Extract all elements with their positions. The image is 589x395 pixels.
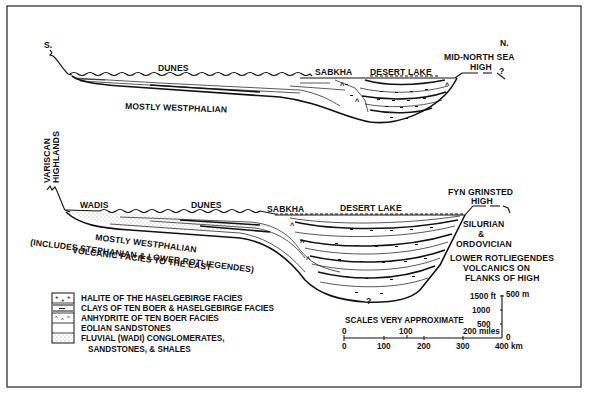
vertical-tick-500m: 500 m xyxy=(506,290,529,299)
fluvial-swatch xyxy=(53,334,73,342)
km-tick-0: 0 xyxy=(342,342,347,351)
label-fyn-grinsted-2: HIGH xyxy=(471,196,493,206)
label-north: N. xyxy=(500,38,509,48)
svg-text:^: ^ xyxy=(355,97,360,106)
miles-tick-0: 0 xyxy=(342,327,347,336)
label-top-dunes: DUNES xyxy=(158,63,189,73)
svg-text:^: ^ xyxy=(61,317,64,323)
miles-tick-100: 100 xyxy=(399,327,413,336)
svg-text:^: ^ xyxy=(290,221,295,230)
svg-text:^: ^ xyxy=(306,255,311,264)
km-tick-400: 400 km xyxy=(495,342,523,351)
label-bottom-sabkha: SABKHA xyxy=(267,204,304,214)
legend-item-eolian: EOLIAN SANDSTONES xyxy=(81,324,171,333)
cross-section-diagram: ^ ^ ^ S. N. DUNES SABKHA DESERT LAKE MID… xyxy=(0,0,589,395)
label-volcanics-2: VOLCANICS ON xyxy=(463,263,530,273)
label-top-sabkha: SABKHA xyxy=(315,67,352,77)
label-top-desert-lake: DESERT LAKE xyxy=(370,67,432,77)
label-wadis: WADIS xyxy=(80,200,109,210)
label-silurian: SILURIAN xyxy=(463,219,504,229)
vertical-tick-zero: 0 xyxy=(506,333,511,342)
svg-text:^: ^ xyxy=(55,315,58,321)
vertical-tick-500: 500 xyxy=(477,320,491,329)
legend-item-halite: HALITE OF THE HASELGEBIRGE FACIES xyxy=(81,294,243,303)
label-top-question: ? xyxy=(499,66,504,76)
label-ordovician: ORDOVICIAN xyxy=(456,239,512,249)
legend-item-fluvial: FLUVIAL (WADI) CONGLOMERATES, xyxy=(81,334,224,343)
svg-text:+: + xyxy=(61,297,65,303)
label-silurian-amp: & xyxy=(478,229,484,239)
label-south: S. xyxy=(44,40,52,50)
vertical-tick-1500ft: 1500 ft xyxy=(470,292,496,301)
vertical-tick-1000: 1000 xyxy=(472,306,491,315)
scale-title: SCALES VERY APPROXIMATE xyxy=(345,316,464,325)
label-highlands: HIGHLANDS xyxy=(51,131,61,183)
km-tick-200: 200 xyxy=(417,342,431,351)
svg-text:^: ^ xyxy=(445,81,450,90)
label-volcanics-1: LOWER ROTLIEGENDES xyxy=(450,253,554,263)
label-bottom-desert-lake: DESERT LAKE xyxy=(340,203,402,213)
svg-text:^: ^ xyxy=(340,81,345,90)
svg-text:^: ^ xyxy=(67,315,70,321)
label-bottom-dunes: DUNES xyxy=(191,200,222,210)
legend-item-clay: CLAYS OF TEN BOER & HASELGEBIRGE FACIES xyxy=(81,304,275,313)
label-bottom-question: ? xyxy=(366,296,371,306)
label-mid-north-sea-high-1: MID-NORTH SEA xyxy=(444,52,515,62)
km-tick-100: 100 xyxy=(377,342,391,351)
legend-item-anhydrite: ANHYDRITE OF TEN BOER FACIES xyxy=(81,314,219,323)
svg-text:+: + xyxy=(67,294,71,300)
label-mid-north-sea-high-2: HIGH xyxy=(470,62,492,72)
svg-text:+: + xyxy=(55,294,59,300)
legend-item-fluvial-cont: SANDSTONES, & SHALES xyxy=(88,345,191,354)
svg-text:^: ^ xyxy=(300,238,305,247)
km-tick-300: 300 xyxy=(456,342,470,351)
label-volcanics-3: FLANKS OF HIGH xyxy=(465,273,539,283)
